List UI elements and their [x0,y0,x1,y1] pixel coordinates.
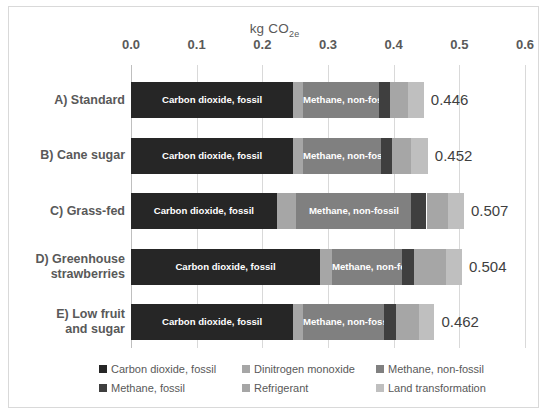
bar-segment[interactable] [293,304,303,340]
bar-segment-label: Methane, non-fossil [303,138,380,174]
category-label-line: C) Grass-fed [9,204,125,219]
bar-segment[interactable] [277,193,297,229]
legend-swatch-icon [376,384,384,392]
bar-segment[interactable] [402,249,414,285]
bar-segment-label: Carbon dioxide, fossil [131,193,277,229]
bar-segment-label: Methane, non-fossil [296,193,411,229]
bar-segment-label: Methane, non-fossil [303,304,384,340]
category-label: E) Low fruitand sugar [9,307,125,337]
legend-swatch-icon [376,365,384,373]
bar-segment-label: Carbon dioxide, fossil [131,304,293,340]
chart-frame: kg CO2e Carbon dioxide, fossilMethane, n… [8,6,539,408]
legend-item[interactable]: Dinitrogen monoxide [242,363,355,375]
bar-total-label: 0.446 [431,82,469,118]
x-tick-label: 0.5 [450,37,468,52]
bar-segment-label: Methane, non-fossil [332,249,402,285]
bar-segment[interactable]: Methane, non-fossil [296,193,411,229]
category-label: A) Standard [9,93,125,108]
x-tick-label: 0.0 [122,37,140,52]
bar-segment[interactable] [293,138,303,174]
bar-segment[interactable] [411,193,426,229]
legend-label: Methane, fossil [111,382,185,394]
bar-segment[interactable] [392,138,411,174]
legend-label: Dinitrogen monoxide [254,363,355,375]
x-tick-label: 0.2 [253,37,271,52]
bar-segment[interactable] [381,138,393,174]
bar-segment[interactable]: Carbon dioxide, fossil [131,249,320,285]
category-label-line: and sugar [9,322,125,337]
bar-segment[interactable] [390,82,408,118]
category-label-line: E) Low fruit [9,307,125,322]
bar-total-label: 0.452 [435,138,473,174]
category-label-line: B) Cane sugar [9,148,125,163]
bar-segment[interactable] [408,82,424,118]
category-label: C) Grass-fed [9,204,125,219]
x-tick-label: 0.3 [319,37,337,52]
legend-swatch-icon [242,384,250,392]
bar-segment[interactable] [293,82,303,118]
category-label-line: D) Greenhouse [9,252,125,267]
bar-segment[interactable]: Methane, non-fossil [332,249,402,285]
bar-segment-label: Carbon dioxide, fossil [131,249,320,285]
bar-segment-label: Carbon dioxide, fossil [131,138,293,174]
bar-segment[interactable] [414,249,446,285]
legend-item[interactable]: Carbon dioxide, fossil [99,363,216,375]
bar-segment[interactable] [384,304,396,340]
category-label: D) Greenhousestrawberries [9,252,125,282]
legend-item[interactable]: Methane, fossil [99,382,185,394]
bar-total-label: 0.462 [441,304,479,340]
category-label-line: A) Standard [9,93,125,108]
bar-segment[interactable] [446,249,462,285]
category-label: B) Cane sugar [9,148,125,163]
bar-segment[interactable]: Methane, non-fossil [303,304,384,340]
bar-segment[interactable] [379,82,391,118]
bar-segment[interactable]: Methane, non-fossil [303,82,379,118]
axis-title-prefix: kg CO [250,21,289,36]
legend-item[interactable]: Methane, non-fossil [376,363,484,375]
legend-label: Carbon dioxide, fossil [111,363,216,375]
legend-item[interactable]: Land transformation [376,382,486,394]
x-tick-label: 0.4 [385,37,403,52]
bar-segment[interactable]: Carbon dioxide, fossil [131,138,293,174]
bar-segment[interactable] [396,304,418,340]
bar-segment[interactable] [320,249,332,285]
bar-total-label: 0.507 [471,193,509,229]
bar-segment[interactable] [411,138,427,174]
legend-label: Land transformation [388,382,486,394]
legend-swatch-icon [242,365,250,373]
category-label-line: strawberries [9,267,125,282]
bar-segment-label: Methane, non-fossil [303,82,379,118]
bar-segment[interactable] [448,193,464,229]
legend-row: Carbon dioxide, fossilDinitrogen monoxid… [99,359,469,378]
legend-label: Methane, non-fossil [388,363,484,375]
bar-row[interactable]: Carbon dioxide, fossilMethane, non-fossi… [131,249,525,285]
bar-segment[interactable] [419,304,435,340]
legend-label: Refrigerant [254,382,308,394]
legend-row: Methane, fossilRefrigerantLand transform… [99,378,469,397]
bar-segment[interactable]: Carbon dioxide, fossil [131,304,293,340]
axis-title-subscript: 2e [289,29,299,39]
bar-segment[interactable] [427,193,448,229]
x-tick-label: 0.1 [188,37,206,52]
bar-total-label: 0.504 [469,249,507,285]
bar-segment-label: Carbon dioxide, fossil [131,82,293,118]
gridline-0.6 [525,65,526,348]
bar-segment[interactable]: Carbon dioxide, fossil [131,82,293,118]
bar-segment[interactable]: Carbon dioxide, fossil [131,193,277,229]
bar-row[interactable]: Carbon dioxide, fossilMethane, non-fossi… [131,193,525,229]
x-tick-label: 0.6 [516,37,534,52]
legend-swatch-icon [99,365,107,373]
legend: Carbon dioxide, fossilDinitrogen monoxid… [99,359,469,397]
bar-segment[interactable]: Methane, non-fossil [303,138,380,174]
legend-item[interactable]: Refrigerant [242,382,308,394]
legend-swatch-icon [99,384,107,392]
